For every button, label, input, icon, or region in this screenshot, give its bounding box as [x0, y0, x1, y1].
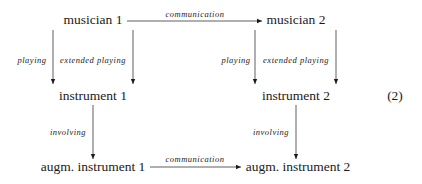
node-augm-instrument-2: augm. instrument 2 [246, 160, 351, 174]
equation-number: (2) [387, 89, 403, 103]
node-musician-1: musician 1 [64, 13, 123, 27]
label-i2-involving: involving [253, 128, 289, 137]
node-instrument-2: instrument 2 [262, 89, 330, 103]
label-top-communication: communication [166, 10, 225, 19]
label-m2-playing: playing [222, 56, 251, 65]
label-i1-involving: involving [50, 128, 86, 137]
label-bottom-communication: communication [166, 155, 225, 164]
label-m2-extended-playing: extended playing [263, 56, 329, 65]
node-instrument-1: instrument 1 [59, 89, 127, 103]
node-musician-2: musician 2 [267, 13, 326, 27]
node-augm-instrument-1: augm. instrument 1 [41, 160, 146, 174]
label-m1-playing: playing [18, 56, 47, 65]
label-m1-extended-playing: extended playing [60, 56, 126, 65]
